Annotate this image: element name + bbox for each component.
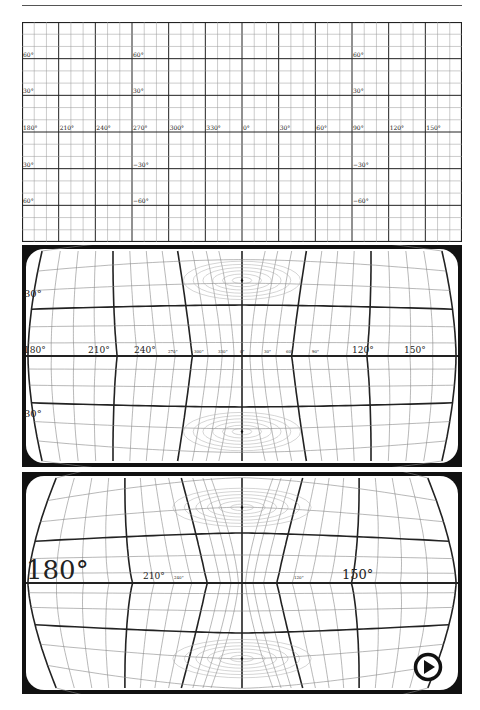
- lon-label: 210°: [60, 124, 74, 131]
- distorted-grid-panel-2: 180°210°240°120°150°: [22, 472, 462, 694]
- lon-label: 330°: [206, 124, 220, 131]
- lat-label: −60°: [353, 197, 369, 204]
- play-circle-icon: [413, 652, 443, 682]
- lat-label: 30°: [23, 161, 34, 168]
- lon-label: 300°: [194, 349, 204, 354]
- lon-label: 300°: [170, 124, 184, 131]
- play-button[interactable]: [413, 652, 443, 682]
- lon-label: 120°: [294, 575, 304, 580]
- distorted-grid-panel-1: 180°210°240°270°300°330°0°30°60°90°120°1…: [22, 245, 462, 467]
- lat-label: 30°: [133, 87, 144, 94]
- equirectangular-grid: 180°210°240°270°300°330°0°30°60°90°120°1…: [22, 22, 462, 242]
- lon-label: 150°: [342, 567, 373, 582]
- pole-point: [241, 430, 243, 432]
- lon-label: 30°: [264, 349, 271, 354]
- pole-point: [241, 506, 243, 508]
- lat-label: 30°: [23, 87, 34, 94]
- lon-label: 0°: [240, 349, 245, 354]
- lat-label: 60°: [133, 51, 144, 58]
- equirectangular-grid-panel: 180°210°240°270°300°330°0°30°60°90°120°1…: [22, 22, 462, 242]
- lon-label: 90°: [312, 349, 319, 354]
- lat-label: 30°: [353, 87, 364, 94]
- lat-label: 30°: [24, 288, 42, 299]
- lon-label: 330°: [218, 349, 228, 354]
- lon-label: 180°: [26, 555, 89, 585]
- lon-label: 0°: [243, 124, 250, 131]
- top-rule: [22, 5, 462, 6]
- lon-label: 180°: [24, 345, 46, 355]
- lon-label: 150°: [426, 124, 440, 131]
- pole-point: [241, 279, 243, 281]
- lat-label: 60°: [23, 51, 34, 58]
- lon-label: 210°: [88, 345, 110, 355]
- distorted-grid-1: 180°210°240°270°300°330°0°30°60°90°120°1…: [22, 245, 462, 467]
- lon-label: 150°: [404, 345, 426, 355]
- lon-label: 240°: [174, 575, 184, 580]
- lat-label: 60°: [353, 51, 364, 58]
- pole-point: [241, 657, 243, 659]
- lat-label: 30°: [24, 408, 42, 419]
- lat-label: −30°: [353, 161, 369, 168]
- lon-label: 240°: [96, 124, 110, 131]
- lon-label: 180°: [23, 124, 37, 131]
- lon-label: 60°: [316, 124, 327, 131]
- lon-label: 60°: [286, 349, 293, 354]
- lat-label: −30°: [133, 161, 149, 168]
- distorted-grid-2: 180°210°240°120°150°: [22, 472, 462, 694]
- lon-label: 240°: [134, 345, 156, 355]
- lon-label: 30°: [280, 124, 291, 131]
- lon-label: 270°: [168, 349, 178, 354]
- lon-label: 210°: [143, 571, 165, 581]
- lat-label: −60°: [133, 197, 149, 204]
- lon-label: 90°: [353, 124, 364, 131]
- lon-label: 120°: [390, 124, 404, 131]
- lon-label: 270°: [133, 124, 147, 131]
- lon-label: 120°: [352, 345, 374, 355]
- lat-label: 60°: [23, 197, 34, 204]
